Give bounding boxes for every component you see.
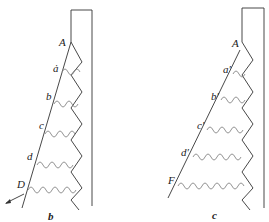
label-a-prime: a′ xyxy=(223,63,232,75)
panel-c-wave-F xyxy=(178,183,244,189)
panel-c: A a′ b′ c′ d′ F c xyxy=(167,8,264,221)
panel-b-wave-b xyxy=(54,101,78,107)
panel-b-wave-c xyxy=(45,131,75,137)
panel-b-wave-D xyxy=(28,187,76,193)
label-b: b xyxy=(46,90,52,102)
panel-b-wave-a xyxy=(62,69,80,75)
panel-b-zigzag xyxy=(71,42,82,210)
label-A: A xyxy=(231,37,239,49)
label-a: ȧ xyxy=(53,62,59,74)
label-D: D xyxy=(16,178,25,190)
arrow-head-icon xyxy=(5,199,11,204)
label-A: A xyxy=(58,36,66,48)
label-F: F xyxy=(167,174,175,186)
label-b-prime: b′ xyxy=(211,90,220,102)
diagram: A ȧ b c d D b A a′ b′ c′ d′ F c xyxy=(0,0,269,222)
label-c: c xyxy=(39,119,44,131)
caption-c: c xyxy=(212,209,217,221)
panel-b: A ȧ b c d D b xyxy=(5,10,92,222)
caption-b: b xyxy=(48,210,54,222)
panel-c-wave-c xyxy=(207,127,243,133)
panel-c-frame xyxy=(242,8,264,208)
label-c-prime: c′ xyxy=(197,119,205,131)
panel-b-diagonal xyxy=(22,42,71,208)
panel-b-wave-d xyxy=(37,162,73,168)
label-d: d xyxy=(27,150,33,162)
panel-c-wave-d xyxy=(193,154,241,160)
panel-c-wave-b xyxy=(221,97,245,103)
label-d-prime: d′ xyxy=(181,146,190,158)
